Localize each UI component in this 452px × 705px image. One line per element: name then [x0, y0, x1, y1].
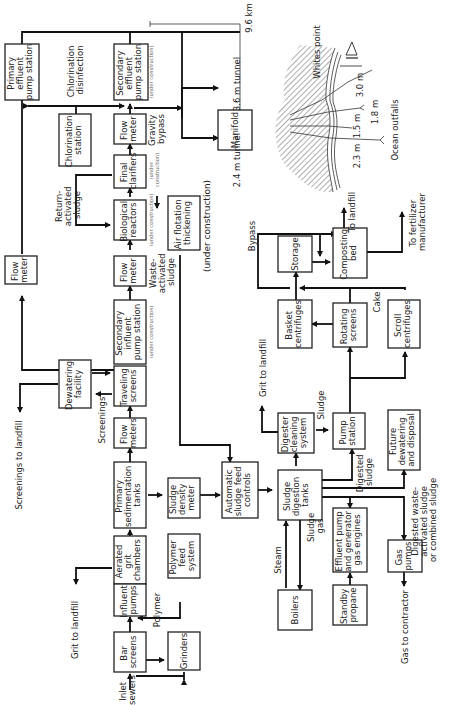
svg-text:Screenings to landfill: Screenings to landfill — [14, 420, 24, 509]
svg-text:To landfill: To landfill — [347, 192, 357, 233]
svg-text:Flow meter: Flow meter — [119, 258, 138, 284]
svg-text:Digester cleaning: Digester cleaning system — [280, 414, 308, 453]
svg-text:Biological reactors: Biological reactors — [119, 198, 138, 242]
svg-text:Ocean outfalls: Ocean outfalls — [390, 99, 400, 161]
svg-text:Gravity bypass: Gravity bypass — [147, 112, 166, 146]
svg-text:(under construction): (under construction) — [148, 45, 154, 98]
svg-text:Pump station: Pump station — [338, 416, 357, 445]
svg-text:Rotating screens: Rotating screens — [339, 306, 358, 344]
svg-text:Flow meter: Flow meter — [119, 116, 138, 142]
svg-text:Influent pumps: Influent pumps — [119, 582, 138, 617]
svg-text:(under construction): (under construction) — [202, 180, 212, 272]
svg-text:Gas to contractor: Gas to contractor — [400, 589, 410, 664]
svg-text:(under construction): (under construction) — [148, 305, 154, 358]
svg-text:Steam: Steam — [273, 546, 283, 573]
svg-text:Grinders: Grinders — [179, 632, 189, 669]
svg-text:Sludge: Sludge — [316, 390, 326, 419]
svg-text:Sludge density met: Sludge density meter — [168, 481, 196, 515]
svg-text:Screenings: Screenings — [97, 396, 107, 443]
svg-text:Waste- activated s: Waste- activated sludge — [148, 251, 176, 293]
process-flow-diagram: Primary effluent pump station Secondary … — [0, 0, 452, 705]
svg-text:2.3 m: 2.3 m — [352, 144, 362, 169]
svg-text:Return- activated: Return- activated sludge — [54, 184, 82, 226]
svg-text:Effluent pump and genera: Effluent pump and generator gas engines — [334, 508, 362, 571]
svg-text:1.8 m: 1.8 m — [370, 100, 380, 125]
svg-text:3.6 m tunnel: 3.6 m tunnel — [232, 57, 242, 111]
svg-text:(under construction): (under construction) — [148, 153, 160, 187]
ship-icon — [346, 42, 357, 55]
svg-text:Digested sludge: Digested sludge — [355, 452, 374, 493]
svg-text:Polymer: Polymer — [152, 592, 162, 627]
svg-text:3.0 m: 3.0 m — [355, 73, 365, 98]
svg-text:2.4 m tunnel: 2.4 m tunnel — [232, 133, 242, 187]
svg-text:Cake: Cake — [372, 292, 382, 313]
svg-text:Standby propane: Standby propane — [339, 586, 358, 624]
svg-text:Air flotation thickening: Air flotation thickening — [173, 197, 192, 249]
svg-text:Grit to landfill: Grit to landfill — [258, 339, 268, 397]
svg-text:Inlet sewers: Inlet sewers — [118, 675, 137, 705]
svg-text:Storage: Storage — [290, 237, 300, 270]
svg-text:Flow meter: Flow meter — [10, 257, 29, 283]
svg-text:Digested waste- activate: Digested waste- activated sludge or comb… — [410, 478, 438, 562]
svg-text:Flow meters: Flow meters — [119, 417, 138, 448]
svg-text:To fertilizer manufactur: To fertilizer manufacturer — [408, 193, 427, 251]
svg-text:Chlorination disinfectio: Chlorination disinfection — [66, 43, 85, 97]
svg-text:Boilers: Boilers — [290, 595, 300, 624]
annotation-labels: Chlorination disinfection (under constru… — [14, 3, 438, 705]
svg-text:1.5 m: 1.5 m — [352, 114, 362, 139]
svg-text:Whites point: Whites point — [312, 25, 322, 79]
svg-text:(under construction): (under construction) — [148, 193, 154, 246]
svg-text:Bypass: Bypass — [247, 220, 257, 251]
svg-text:9.6 km: 9.6 km — [244, 3, 254, 32]
coastline-map — [276, 42, 384, 192]
svg-text:Grit to landfill: Grit to landfill — [70, 601, 80, 659]
svg-text:Traveling screens: Traveling screens — [119, 365, 138, 407]
